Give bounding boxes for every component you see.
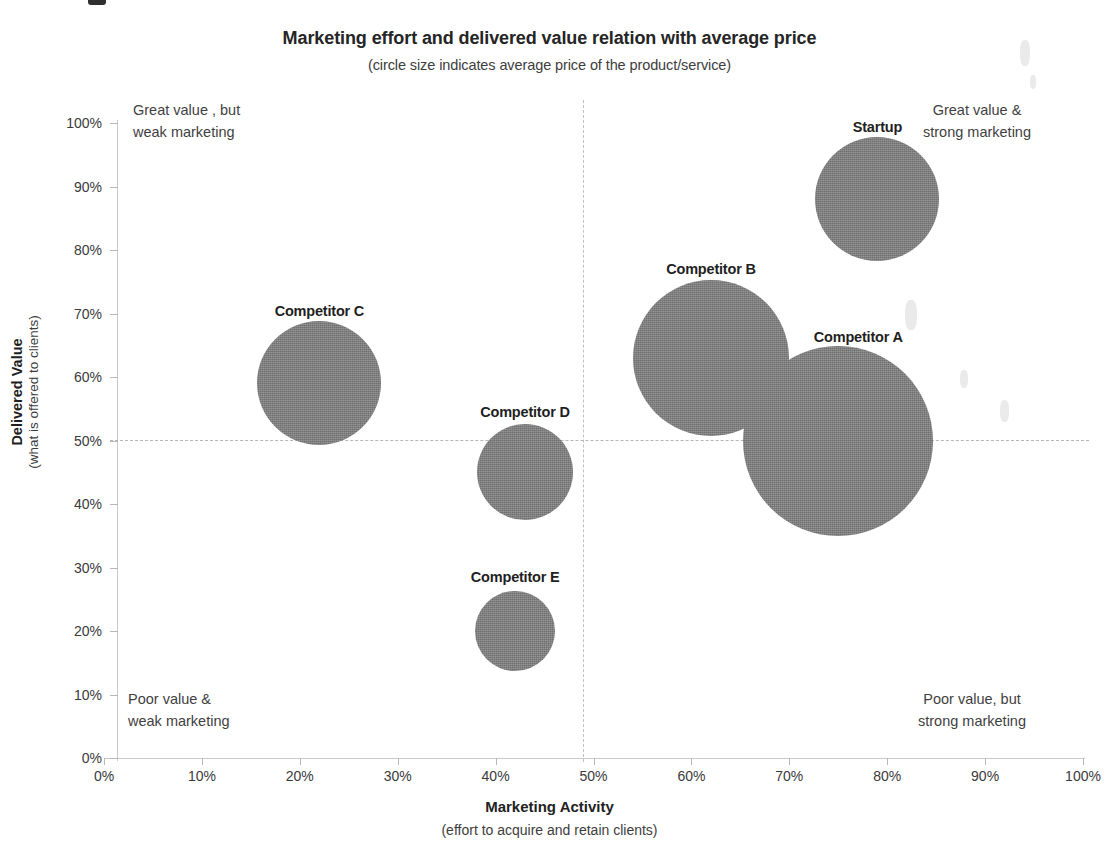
- x-axis-tick-label: 0%: [69, 768, 139, 784]
- quadrant-note-top-left: Great value , but weak marketing: [133, 100, 240, 144]
- y-axis-tick-mark: [110, 377, 118, 378]
- scan-speckle: [960, 370, 968, 388]
- bubble-label-startup: Startup: [853, 119, 902, 135]
- x-axis-line: [104, 758, 1085, 759]
- x-axis-tick-mark: [496, 758, 497, 765]
- x-axis-tick-mark: [1083, 758, 1084, 765]
- y-axis-tick-label: 0%: [40, 750, 102, 766]
- y-axis-tick-mark: [110, 123, 118, 124]
- x-axis-tick-mark: [985, 758, 986, 765]
- x-axis-tick-mark: [594, 758, 595, 765]
- bubble-label-competitor-d: Competitor D: [480, 404, 569, 420]
- x-axis-tick-label: 60%: [656, 768, 726, 784]
- x-axis-tick-mark: [887, 758, 888, 765]
- scan-speckle: [1020, 40, 1030, 66]
- x-axis-tick-mark: [202, 758, 203, 765]
- bubble-label-competitor-e: Competitor E: [471, 569, 560, 585]
- y-axis-tick-mark: [110, 314, 118, 315]
- x-axis-tick-mark: [300, 758, 301, 765]
- x-axis-tick-label: 20%: [265, 768, 335, 784]
- x-axis-title: Marketing Activity: [0, 798, 1099, 815]
- bubble-competitor-b[interactable]: [633, 280, 789, 436]
- x-axis-tick-label: 100%: [1048, 768, 1106, 784]
- y-axis-tick-label: 20%: [40, 623, 102, 639]
- chart-subtitle: (circle size indicates average price of …: [0, 57, 1099, 73]
- bubble-label-competitor-c: Competitor C: [275, 303, 364, 319]
- x-axis-tick-label: 70%: [754, 768, 824, 784]
- x-axis-tick-mark: [691, 758, 692, 765]
- y-axis-subtitle: (what is offered to clients): [26, 182, 43, 602]
- vertical-reference-line-50: [583, 100, 584, 762]
- x-axis-tick-label: 80%: [852, 768, 922, 784]
- bubble-competitor-c[interactable]: [257, 321, 381, 445]
- y-axis-title-group: Delivered Value (what is offered to clie…: [8, 182, 52, 602]
- scan-speckle: [1030, 75, 1036, 89]
- quadrant-note-bottom-left: Poor value & weak marketing: [128, 689, 230, 733]
- y-axis-tick-mark: [110, 187, 118, 188]
- horizontal-reference-line-50: [110, 440, 1089, 441]
- y-axis-tick-mark: [110, 250, 118, 251]
- scan-artifact-mark: [88, 0, 106, 5]
- y-axis-tick-label: 10%: [40, 687, 102, 703]
- x-axis-tick-label: 40%: [461, 768, 531, 784]
- x-axis-tick-label: 10%: [167, 768, 237, 784]
- scan-speckle: [905, 300, 917, 330]
- quadrant-note-top-right: Great value & strong marketing: [923, 100, 1031, 144]
- bubble-competitor-d[interactable]: [477, 424, 573, 520]
- quadrant-note-bottom-right: Poor value, but strong marketing: [918, 689, 1026, 733]
- y-axis-tick-mark: [110, 568, 118, 569]
- x-axis-tick-label: 30%: [363, 768, 433, 784]
- y-axis-tick-mark: [110, 441, 118, 442]
- x-axis-tick-mark: [398, 758, 399, 765]
- x-axis-tick-label: 90%: [950, 768, 1020, 784]
- y-axis-tick-mark: [110, 504, 118, 505]
- y-axis-tick-mark: [110, 758, 118, 759]
- bubble-label-competitor-a: Competitor A: [814, 329, 903, 345]
- y-axis-tick-label: 100%: [40, 115, 102, 131]
- bubble-competitor-e[interactable]: [475, 591, 555, 671]
- y-axis-title: Delivered Value: [8, 182, 26, 602]
- bubble-startup[interactable]: [815, 137, 939, 261]
- y-axis-tick-mark: [110, 631, 118, 632]
- x-axis-tick-mark: [104, 758, 105, 765]
- scan-speckle: [1000, 400, 1009, 422]
- y-axis-tick-mark: [110, 695, 118, 696]
- chart-title: Marketing effort and delivered value rel…: [0, 28, 1099, 49]
- x-axis-tick-mark: [789, 758, 790, 765]
- bubble-label-competitor-b: Competitor B: [666, 261, 755, 277]
- x-axis-tick-label: 50%: [559, 768, 629, 784]
- x-axis-subtitle: (effort to acquire and retain clients): [0, 822, 1099, 838]
